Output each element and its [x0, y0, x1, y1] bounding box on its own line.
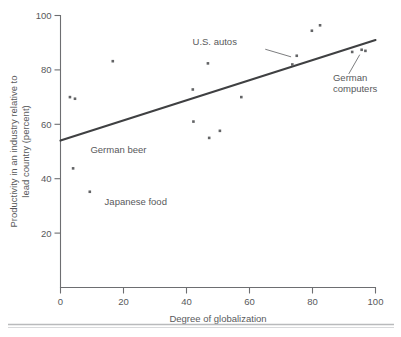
scatter-plot-svg: 20406080100020406080100 U.S. autosGerman… [0, 0, 401, 337]
footer-divider-group [8, 325, 394, 328]
annotation-label: computers [333, 83, 378, 94]
y-tick-label: 60 [41, 119, 52, 130]
data-point [291, 63, 294, 66]
y-tick-label: 100 [36, 10, 52, 21]
y-axis-title-line1: Productivity in an industry relative to [8, 75, 19, 227]
data-point [364, 50, 367, 53]
data-point [111, 60, 114, 63]
annotation-label: U.S. autos [193, 36, 238, 47]
data-point [192, 88, 195, 91]
x-tick-label: 80 [307, 296, 318, 307]
trend-line-group [61, 40, 376, 141]
data-point [72, 167, 75, 170]
data-point [240, 96, 243, 99]
x-axis-title: Degree of globalization [169, 313, 266, 324]
data-point [74, 97, 77, 100]
annotations-group: U.S. autosGerman beerJapanese foodGerman… [90, 36, 377, 207]
data-point [219, 130, 222, 133]
data-point [319, 24, 322, 27]
y-tick-label: 40 [41, 173, 52, 184]
x-tick-label: 20 [118, 296, 129, 307]
data-point [69, 96, 72, 99]
x-tick-label: 40 [181, 296, 192, 307]
x-tick-label: 0 [58, 296, 63, 307]
y-axis-title-line2: lead country (percent) [20, 105, 31, 197]
y-tick-label: 80 [41, 64, 52, 75]
y-tick-label: 20 [41, 228, 52, 239]
data-point [311, 29, 314, 32]
x-tick-label: 100 [368, 296, 384, 307]
data-point [88, 190, 91, 193]
annotation-label: Japanese food [105, 196, 167, 207]
data-point [295, 54, 298, 57]
annotation-leader-line [265, 49, 291, 57]
data-point [208, 137, 211, 140]
annotation-label: German [333, 72, 367, 83]
annotation-label: German beer [90, 144, 146, 155]
data-point [360, 48, 363, 51]
x-tick-label: 60 [244, 296, 255, 307]
data-point [351, 51, 354, 54]
data-point [192, 120, 195, 123]
data-points-group [69, 24, 367, 193]
chart-figure: 20406080100020406080100 U.S. autosGerman… [0, 0, 401, 337]
trend-line [61, 40, 376, 141]
data-point [207, 62, 210, 65]
